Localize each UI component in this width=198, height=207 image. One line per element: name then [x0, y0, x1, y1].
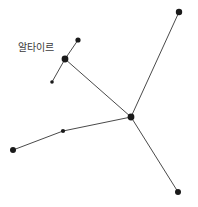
- bottom-right-star: [175, 189, 181, 195]
- line-hub-to-bottom-right: [131, 117, 178, 192]
- upper-small-star: [75, 37, 80, 42]
- star-map-canvas: [0, 0, 198, 207]
- top-right-star: [176, 9, 182, 15]
- line-hub-to-mid-left: [63, 117, 131, 131]
- far-left-star: [10, 147, 16, 153]
- altair-star: [62, 56, 69, 63]
- line-altair-to-lower-small: [52, 59, 65, 82]
- line-mid-left-to-far-left: [13, 131, 63, 150]
- central-hub-star: [128, 114, 135, 121]
- altair-label: 알타이르: [18, 42, 54, 53]
- line-altair-to-hub: [65, 59, 131, 117]
- constellation-star-map: 알타이르: [0, 0, 198, 207]
- constellation-lines-group: [13, 12, 179, 192]
- line-hub-to-top-right: [131, 12, 179, 117]
- constellation-stars-group: [10, 9, 182, 195]
- mid-left-star: [61, 129, 65, 133]
- line-altair-to-upper-small: [65, 40, 78, 59]
- lower-small-star: [50, 80, 54, 84]
